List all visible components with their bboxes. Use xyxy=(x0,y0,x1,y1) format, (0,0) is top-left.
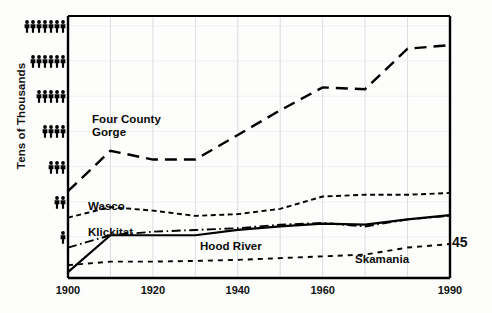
series-label-skamania: Skamania xyxy=(355,253,409,266)
x-tick-label-1920: 1920 xyxy=(131,284,175,296)
series-label-four-county-gorge: Four County Gorge xyxy=(92,113,161,138)
x-tick-label-1900: 1900 xyxy=(46,284,90,296)
series-label-hood-river: Hood River xyxy=(200,240,262,253)
y-tick-pictogram-5 xyxy=(36,89,66,103)
plot-frame xyxy=(68,16,450,278)
page-number: 45 xyxy=(452,234,468,250)
series-line-wasco xyxy=(68,193,450,218)
y-tick-pictogram-6 xyxy=(30,54,66,68)
y-tick-pictogram-7 xyxy=(24,19,66,33)
y-tick-pictogram-4 xyxy=(42,124,66,138)
x-tick-label-1960: 1960 xyxy=(301,284,345,296)
gridlines-group xyxy=(68,16,450,278)
y-tick-pictogram-2 xyxy=(54,195,66,209)
series-label-klickitat: Klickitat xyxy=(88,226,133,239)
series-label-wasco: Wasco xyxy=(88,200,125,213)
y-tick-pictogram-1 xyxy=(60,230,66,244)
x-tick-label-1940: 1940 xyxy=(216,284,260,296)
y-tick-pictogram-3 xyxy=(48,160,66,174)
chart-canvas xyxy=(0,0,492,313)
x-tick-label-1990: 1990 xyxy=(428,284,472,296)
population-line-chart-figure: Tens of Thousands 19001920194019601990 F… xyxy=(0,0,492,313)
